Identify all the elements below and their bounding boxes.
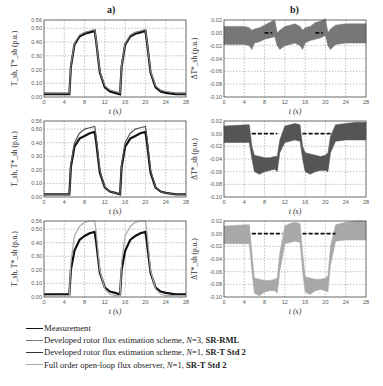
svg-text:-0.04: -0.04: [209, 156, 222, 162]
svg-text:12: 12: [282, 199, 288, 205]
chart-grid: 04812162024280.000.100.200.300.400.500.5…: [0, 0, 383, 320]
series-line: [44, 31, 186, 94]
svg-text:0.00: 0.00: [31, 94, 42, 100]
svg-text:0.20: 0.20: [31, 67, 42, 73]
svg-text:8: 8: [263, 299, 266, 305]
svg-text:0.00: 0.00: [211, 30, 222, 36]
svg-text:20: 20: [322, 99, 328, 105]
svg-text:-0.06: -0.06: [209, 269, 222, 275]
svg-text:4: 4: [243, 199, 246, 205]
svg-text:0: 0: [222, 299, 225, 305]
svg-text:0.30: 0.30: [31, 153, 42, 159]
svg-text:0: 0: [42, 299, 45, 305]
svg-text:-0.08: -0.08: [209, 181, 222, 187]
svg-text:t (s): t (s): [109, 207, 122, 216]
svg-text:0: 0: [42, 199, 45, 205]
svg-text:0.02: 0.02: [211, 118, 222, 124]
svg-text:-0.02: -0.02: [209, 143, 222, 149]
svg-text:28: 28: [183, 199, 189, 205]
plot-b1: 0481216202428-0.10-0.08-0.06-0.04-0.020.…: [190, 17, 369, 116]
svg-text:28: 28: [183, 299, 189, 305]
svg-text:4: 4: [63, 199, 66, 205]
svg-text:0.00: 0.00: [31, 294, 42, 300]
svg-text:t (s): t (s): [289, 307, 302, 316]
svg-text:0.40: 0.40: [31, 140, 42, 146]
svg-text:0.10: 0.10: [31, 80, 42, 86]
svg-text:8: 8: [263, 199, 266, 205]
svg-text:0.30: 0.30: [31, 53, 42, 59]
legend: MeasurementDeveloped rotor flux estimati…: [26, 322, 246, 371]
legend-swatch: [26, 328, 43, 329]
plot-a2: 04812162024280.000.100.200.300.400.500.5…: [10, 118, 189, 216]
svg-text:8: 8: [83, 299, 86, 305]
svg-text:0.56: 0.56: [31, 218, 42, 224]
legend-swatch: [26, 352, 43, 353]
svg-text:20: 20: [322, 199, 328, 205]
legend-label: Measurement: [44, 322, 91, 334]
svg-text:ΔT*_sh (p.u.): ΔT*_sh (p.u.): [190, 138, 199, 180]
error-band: [224, 122, 366, 174]
svg-text:24: 24: [163, 299, 169, 305]
svg-text:20: 20: [142, 299, 148, 305]
svg-text:4: 4: [63, 99, 66, 105]
series-line: [44, 132, 186, 194]
svg-text:-0.06: -0.06: [209, 68, 222, 74]
legend-label: Developed rotor flux estimation scheme, …: [44, 346, 246, 358]
svg-text:-0.02: -0.02: [209, 243, 222, 249]
svg-text:16: 16: [122, 99, 128, 105]
legend-item: Full order open-loop flux observer, N=1,…: [26, 359, 246, 371]
svg-text:0: 0: [42, 99, 45, 105]
plot-a1: 04812162024280.000.100.200.300.400.500.5…: [10, 17, 189, 116]
svg-text:24: 24: [163, 199, 169, 205]
svg-text:T_sh, T*_sh (p.u.): T_sh, T*_sh (p.u.): [10, 231, 19, 287]
svg-text:8: 8: [83, 199, 86, 205]
svg-text:12: 12: [102, 299, 108, 305]
svg-text:8: 8: [83, 99, 86, 105]
svg-text:12: 12: [282, 99, 288, 105]
legend-item: Measurement: [26, 322, 246, 334]
svg-text:t (s): t (s): [109, 107, 122, 116]
svg-text:T_sh, T*_sh (p.u.): T_sh, T*_sh (p.u.): [10, 131, 19, 187]
svg-text:ΔT*_sh (p.u.): ΔT*_sh (p.u.): [190, 37, 199, 79]
svg-text:20: 20: [322, 299, 328, 305]
svg-text:-0.06: -0.06: [209, 169, 222, 175]
svg-text:28: 28: [363, 299, 369, 305]
svg-text:0.20: 0.20: [31, 167, 42, 173]
svg-text:0.00: 0.00: [211, 131, 222, 137]
svg-text:24: 24: [343, 199, 349, 205]
legend-label: Full order open-loop flux observer, N=1,…: [44, 359, 226, 371]
svg-text:4: 4: [243, 299, 246, 305]
svg-text:0.56: 0.56: [31, 17, 42, 23]
svg-text:16: 16: [302, 99, 308, 105]
svg-text:24: 24: [343, 99, 349, 105]
svg-text:0.02: 0.02: [211, 218, 222, 224]
svg-text:t (s): t (s): [109, 307, 122, 316]
svg-text:20: 20: [142, 99, 148, 105]
svg-text:4: 4: [243, 99, 246, 105]
svg-text:16: 16: [122, 199, 128, 205]
svg-text:0.30: 0.30: [31, 253, 42, 259]
svg-text:t (s): t (s): [289, 107, 302, 116]
svg-text:20: 20: [142, 199, 148, 205]
svg-text:-0.08: -0.08: [209, 281, 222, 287]
svg-text:16: 16: [302, 299, 308, 305]
legend-label: Developed rotor flux estimation scheme, …: [44, 334, 239, 346]
series-line: [44, 232, 186, 294]
svg-text:8: 8: [263, 99, 266, 105]
svg-text:-0.02: -0.02: [209, 43, 222, 49]
svg-text:-0.10: -0.10: [209, 94, 222, 100]
svg-text:0: 0: [222, 199, 225, 205]
svg-text:0.00: 0.00: [211, 231, 222, 237]
svg-text:28: 28: [363, 199, 369, 205]
svg-text:0.20: 0.20: [31, 267, 42, 273]
svg-text:0: 0: [222, 99, 225, 105]
svg-text:24: 24: [343, 299, 349, 305]
plot-b2: 0481216202428-0.10-0.08-0.06-0.04-0.020.…: [190, 118, 369, 216]
svg-text:4: 4: [63, 299, 66, 305]
svg-text:0.00: 0.00: [31, 194, 42, 200]
legend-swatch: [26, 340, 43, 341]
svg-text:0.40: 0.40: [31, 39, 42, 45]
legend-item: Developed rotor flux estimation scheme, …: [26, 334, 246, 346]
svg-text:-0.08: -0.08: [209, 81, 222, 87]
svg-text:T_sh, T*_sh (p.u.): T_sh, T*_sh (p.u.): [10, 30, 19, 86]
